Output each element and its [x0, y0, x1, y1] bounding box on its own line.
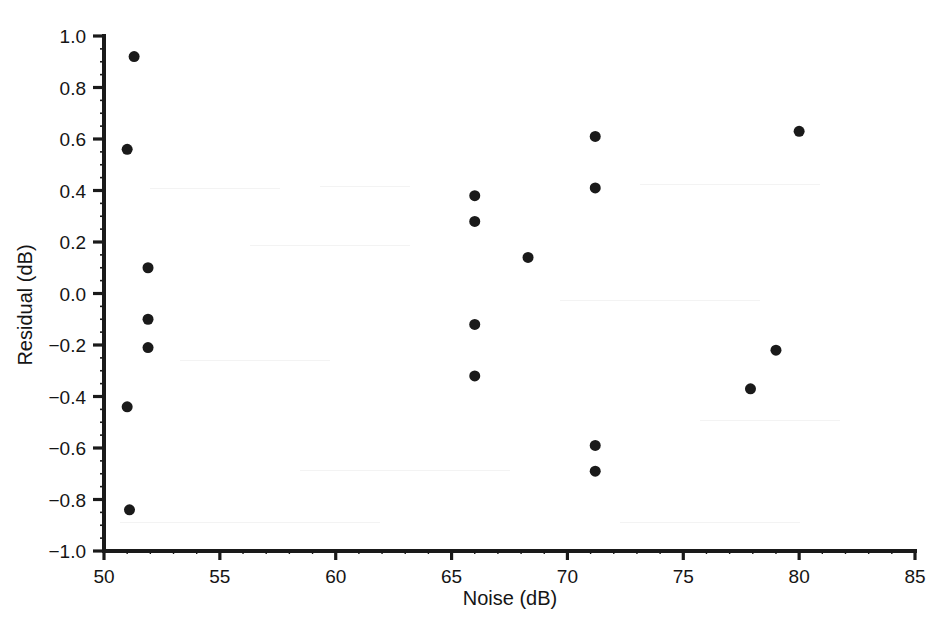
- scatter-plot-figure: −1.0−0.8−0.6−0.4−0.20.00.20.40.60.81.0 5…: [0, 0, 935, 634]
- data-point: [143, 342, 154, 353]
- data-point: [469, 319, 480, 330]
- y-tick-label: −0.8: [48, 490, 86, 511]
- y-tick-label: −1.0: [48, 541, 86, 562]
- data-point: [124, 504, 135, 515]
- data-point: [469, 216, 480, 227]
- x-tick-label: 55: [209, 566, 230, 587]
- data-point: [129, 51, 140, 62]
- x-tick-label: 65: [441, 566, 462, 587]
- data-point: [523, 252, 534, 263]
- y-tick-label: −0.2: [48, 335, 86, 356]
- y-tick-label: −0.6: [48, 438, 86, 459]
- data-point: [122, 144, 133, 155]
- y-tick-label: 0.0: [60, 284, 86, 305]
- x-axis-title: Noise (dB): [463, 587, 557, 609]
- figure-background: [0, 0, 935, 634]
- data-point: [590, 182, 601, 193]
- data-point: [590, 466, 601, 477]
- y-tick-label: 0.6: [60, 129, 86, 150]
- y-tick-label: −0.4: [48, 387, 86, 408]
- data-point: [794, 126, 805, 137]
- y-tick-label: 0.8: [60, 78, 86, 99]
- data-point: [745, 383, 756, 394]
- data-point: [770, 345, 781, 356]
- x-tick-label: 50: [93, 566, 114, 587]
- data-point: [469, 370, 480, 381]
- x-tick-label: 75: [673, 566, 694, 587]
- y-tick-label: 0.4: [60, 181, 87, 202]
- x-tick-label: 85: [904, 566, 925, 587]
- data-point: [143, 262, 154, 273]
- plot-canvas: −1.0−0.8−0.6−0.4−0.20.00.20.40.60.81.0 5…: [0, 0, 935, 634]
- data-point: [143, 314, 154, 325]
- y-axis-title: Residual (dB): [14, 244, 36, 365]
- data-point: [590, 131, 601, 142]
- data-point: [590, 440, 601, 451]
- x-tick-label: 60: [325, 566, 346, 587]
- data-point: [469, 190, 480, 201]
- data-point: [122, 401, 133, 412]
- y-tick-label: 1.0: [60, 26, 86, 47]
- x-tick-label: 70: [557, 566, 578, 587]
- y-tick-label: 0.2: [60, 232, 86, 253]
- x-tick-label: 80: [789, 566, 810, 587]
